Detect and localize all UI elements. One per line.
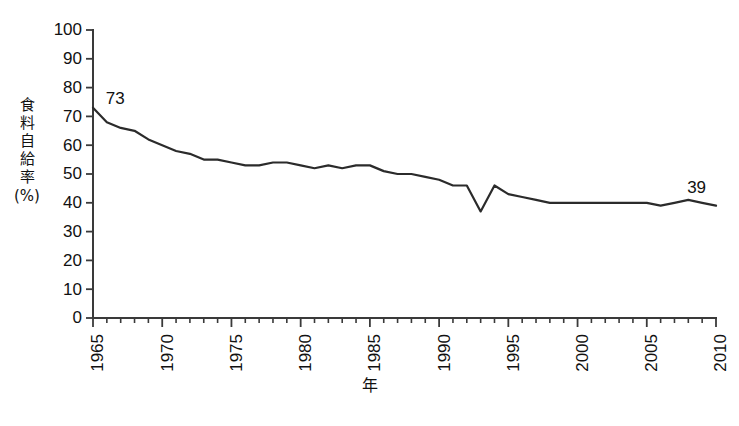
y-axis-tick-labels: 0102030405060708090100 bbox=[54, 20, 82, 327]
y-axis-tick-label: 30 bbox=[63, 222, 82, 241]
chart-container: 0102030405060708090100 19651970197519801… bbox=[0, 0, 739, 426]
x-axis-tick-label: 2005 bbox=[642, 334, 661, 372]
x-axis-tick-label: 1975 bbox=[227, 334, 246, 372]
annotation-start-value: 73 bbox=[106, 89, 125, 108]
x-axis-ticks bbox=[93, 318, 716, 327]
x-axis-tick-label: 1970 bbox=[158, 334, 177, 372]
y-axis-title-char-3: 給 bbox=[14, 150, 40, 168]
y-axis-title-char-1: 料 bbox=[14, 114, 40, 132]
y-axis-tick-label: 100 bbox=[54, 20, 82, 39]
y-axis-title: 食 料 自 給 率 (%) bbox=[14, 96, 40, 205]
y-axis-title-char-2: 自 bbox=[14, 132, 40, 150]
series-line-food-self-sufficiency bbox=[93, 108, 716, 212]
y-axis-tick-label: 90 bbox=[63, 49, 82, 68]
y-axis-tick-label: 10 bbox=[63, 280, 82, 299]
x-axis-tick-label: 1980 bbox=[296, 334, 315, 372]
y-axis-tick-label: 0 bbox=[73, 308, 82, 327]
x-axis-tick-label: 1965 bbox=[88, 334, 107, 372]
y-axis-tick-label: 70 bbox=[63, 107, 82, 126]
x-axis-tick-label: 2000 bbox=[573, 334, 592, 372]
x-axis-title: 年 bbox=[0, 372, 739, 396]
food-self-sufficiency-line-chart: 0102030405060708090100 19651970197519801… bbox=[0, 0, 739, 426]
y-axis-title-char-4: 率 bbox=[14, 168, 40, 186]
x-axis-tick-label: 1985 bbox=[365, 334, 384, 372]
y-axis-tick-label: 50 bbox=[63, 164, 82, 183]
y-axis-title-char-0: 食 bbox=[14, 96, 40, 114]
x-axis-tick-label: 1995 bbox=[504, 334, 523, 372]
y-axis-tick-label: 60 bbox=[63, 136, 82, 155]
y-axis-tick-label: 20 bbox=[63, 251, 82, 270]
y-axis-ticks bbox=[86, 30, 93, 318]
x-axis-tick-labels: 1965197019751980198519901995200020052010 bbox=[88, 334, 730, 372]
y-axis-tick-label: 40 bbox=[63, 193, 82, 212]
y-axis-unit-label: (%) bbox=[14, 187, 40, 205]
x-axis-tick-label: 1990 bbox=[435, 334, 454, 372]
x-axis-tick-label: 2010 bbox=[711, 334, 730, 372]
data-series-group bbox=[93, 108, 716, 212]
annotation-end-value: 39 bbox=[687, 178, 706, 197]
y-axis-tick-label: 80 bbox=[63, 78, 82, 97]
data-annotations: 7339 bbox=[106, 89, 706, 197]
